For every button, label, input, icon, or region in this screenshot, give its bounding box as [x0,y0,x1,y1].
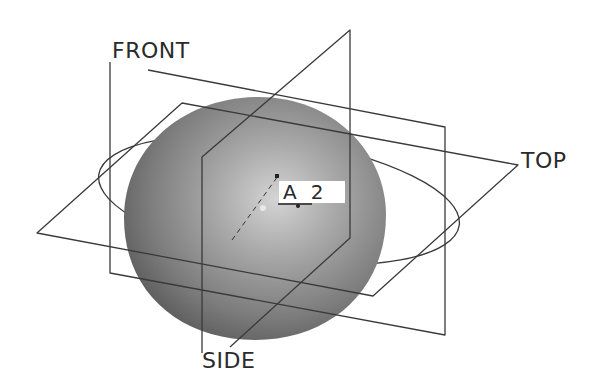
axis-endpoint-marker [275,174,279,178]
axis-origin-dot [260,205,266,211]
side-plane-label: SIDE [202,350,255,372]
axis-tag-letter: A [283,180,297,204]
axis-tag-dot [296,204,300,208]
axis-tag-number: 2 [311,180,324,204]
top-plane-label: TOP [521,150,567,172]
front-plane-label: FRONT [112,40,190,62]
axis-tag-label[interactable]: A2 [279,181,345,203]
